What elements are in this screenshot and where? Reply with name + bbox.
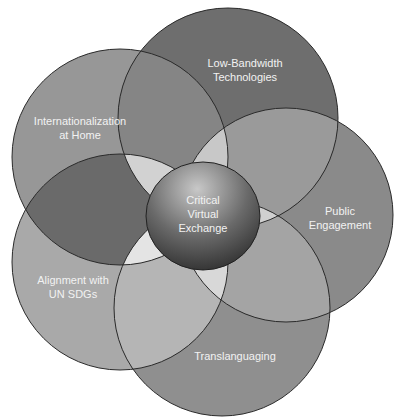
venn-diagram: Low-Bandwidth Technologies Public Engage…: [0, 0, 401, 420]
label-low-bandwidth: Low-Bandwidth Technologies: [207, 56, 282, 84]
label-alignment-sdgs: Alignment with UN SDGs: [37, 273, 109, 301]
label-line: Low-Bandwidth: [207, 56, 282, 70]
label-line: Technologies: [207, 70, 282, 84]
label-translanguaging: Translanguaging: [194, 349, 276, 363]
label-public-engagement: Public Engagement: [309, 204, 371, 232]
label-line: Translanguaging: [194, 349, 276, 363]
label-line: Engagement: [309, 218, 371, 232]
label-line: Critical: [179, 193, 228, 207]
label-line: Exchange: [179, 221, 228, 235]
label-line: Internationalization: [34, 114, 126, 128]
label-line: Virtual: [179, 207, 228, 221]
label-internationalization: Internationalization at Home: [34, 114, 126, 142]
label-line: Public: [309, 204, 371, 218]
label-line: at Home: [34, 128, 126, 142]
label-center: Critical Virtual Exchange: [179, 193, 228, 235]
label-line: UN SDGs: [37, 287, 109, 301]
label-line: Alignment with: [37, 273, 109, 287]
